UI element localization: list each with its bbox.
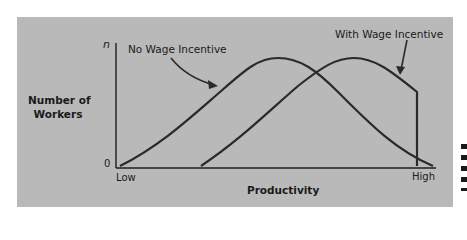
x-tick-high: High xyxy=(412,171,435,182)
annotation-with-wage-incentive: With Wage Incentive xyxy=(335,28,443,40)
cutoff-text-fragment xyxy=(461,144,467,149)
x-axis-title: Productivity xyxy=(247,184,319,196)
cutoff-text-fragment xyxy=(461,155,467,160)
y-axis-title-line1: Number of xyxy=(28,93,88,107)
cutoff-text-fragment xyxy=(461,188,467,191)
y-axis-title-line2: Workers xyxy=(28,107,88,121)
y-tick-zero: 0 xyxy=(104,158,110,169)
cutoff-text-fragment xyxy=(461,177,467,182)
x-tick-low: Low xyxy=(116,172,136,183)
annotation-no-wage-incentive: No Wage Incentive xyxy=(128,43,227,55)
cutoff-text-fragment xyxy=(461,166,467,171)
y-axis-title: Number of Workers xyxy=(28,93,88,121)
y-tick-n: n xyxy=(103,38,110,51)
